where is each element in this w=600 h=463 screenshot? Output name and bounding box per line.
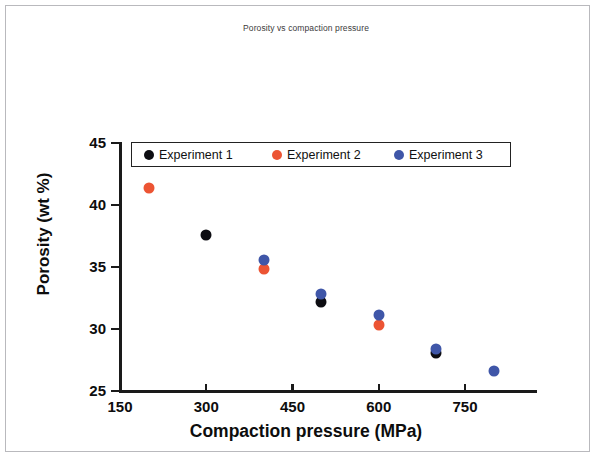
data-point [373,310,384,321]
legend-entry-2[interactable]: Experiment 2 [272,143,361,166]
legend-label: Experiment 3 [409,148,483,162]
plot-area [6,6,591,453]
legend-entry-1[interactable]: Experiment 1 [144,143,233,166]
data-point [201,229,212,240]
page-frame: Porosity vs compaction pressure 25303540… [5,5,590,452]
legend-marker-icon [394,150,404,160]
legend-entry-3[interactable]: Experiment 3 [394,143,483,166]
legend-label: Experiment 1 [159,148,233,162]
data-point [488,366,499,377]
legend-label: Experiment 2 [287,148,361,162]
data-point [258,264,269,275]
data-point [316,289,327,300]
data-point [431,343,442,354]
data-point [258,254,269,265]
chart-legend: Experiment 1Experiment 2Experiment 3 [131,142,511,167]
data-point [143,182,154,193]
data-point [373,320,384,331]
legend-marker-icon [272,150,282,160]
legend-marker-icon [144,150,154,160]
